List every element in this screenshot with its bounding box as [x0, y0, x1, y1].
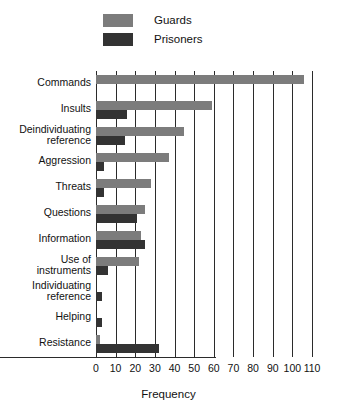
x-tick-label-90: 90 [267, 362, 279, 374]
category-label: Aggression [0, 155, 91, 167]
category-label-line: Insults [0, 103, 91, 115]
category-label: Resistance [0, 337, 91, 349]
x-tick-label-110: 110 [304, 362, 321, 374]
category-label: Use ofinstruments [0, 254, 91, 277]
legend-label-prisoners: Prisoners [154, 33, 203, 46]
bar-prisoners [96, 110, 127, 119]
x-axis-line [0, 357, 216, 358]
category-label: Threats [0, 181, 91, 193]
bar-guards [96, 153, 169, 162]
category-label: Insults [0, 103, 91, 115]
bar-guards [96, 257, 139, 266]
bar-series-container [96, 71, 312, 357]
bar-guards [96, 335, 100, 344]
category-label-line: Commands [0, 77, 91, 89]
bar-prisoners [96, 318, 102, 327]
x-tick-label-20: 20 [129, 362, 141, 374]
category-label-line: Information [0, 233, 91, 245]
category-label: Helping [0, 311, 91, 323]
category-label-line: reference [0, 291, 91, 303]
bar-prisoners [96, 240, 145, 249]
category-label-line: Resistance [0, 337, 91, 349]
bar-group [96, 253, 312, 279]
bar-group [96, 123, 312, 149]
bar-group [96, 149, 312, 175]
bar-guards [96, 205, 145, 214]
category-label-line: reference [0, 135, 91, 147]
category-label-line: Threats [0, 181, 91, 193]
x-tick-label-80: 80 [247, 362, 259, 374]
legend-label-guards: Guards [154, 14, 192, 27]
bar-group [96, 97, 312, 123]
bar-prisoners [96, 214, 137, 223]
bar-group [96, 331, 312, 357]
gridline-110 [312, 71, 313, 357]
bar-guards [96, 127, 184, 136]
category-label: Questions [0, 207, 91, 219]
bar-prisoners [96, 266, 108, 275]
x-tick-label-70: 70 [228, 362, 240, 374]
category-label-line: Helping [0, 311, 91, 323]
x-tick-label-60: 60 [208, 362, 220, 374]
x-tick-label-40: 40 [169, 362, 181, 374]
y-axis-category-labels: CommandsInsultsDeindividuatingreferenceA… [0, 71, 91, 357]
bar-prisoners [96, 344, 159, 353]
prisoners-swatch-icon [103, 33, 133, 46]
x-axis-title: Frequency [0, 388, 337, 400]
bar-prisoners [96, 292, 102, 301]
guards-swatch-icon [103, 14, 133, 27]
category-label-line: Aggression [0, 155, 91, 167]
x-tick-label-50: 50 [188, 362, 200, 374]
chart-plot-area [96, 71, 312, 357]
bar-prisoners [96, 188, 104, 197]
x-axis-tick-labels: 0102030405060708090100110 [0, 362, 337, 378]
category-label-line: instruments [0, 265, 91, 277]
bar-guards [96, 231, 141, 240]
bar-guards [96, 101, 212, 110]
x-tick-label-30: 30 [149, 362, 161, 374]
bar-group [96, 305, 312, 331]
x-tick-label-100: 100 [284, 362, 302, 374]
x-tick-label-0: 0 [93, 362, 99, 374]
legend-item-guards: Guards [103, 14, 203, 27]
category-label: Deindividuatingreference [0, 124, 91, 147]
bar-prisoners [96, 136, 125, 145]
category-label: Commands [0, 77, 91, 89]
bar-prisoners [96, 162, 104, 171]
bar-guards [96, 75, 304, 84]
bar-group [96, 175, 312, 201]
chart-legend: Guards Prisoners [103, 14, 203, 46]
category-label: Information [0, 233, 91, 245]
bar-group [96, 279, 312, 305]
category-label: Individuatingreference [0, 280, 91, 303]
bar-group [96, 201, 312, 227]
x-tick-label-10: 10 [110, 362, 122, 374]
legend-item-prisoners: Prisoners [103, 33, 203, 46]
bar-group [96, 71, 312, 97]
bar-guards [96, 179, 151, 188]
bar-group [96, 227, 312, 253]
category-label-line: Questions [0, 207, 91, 219]
